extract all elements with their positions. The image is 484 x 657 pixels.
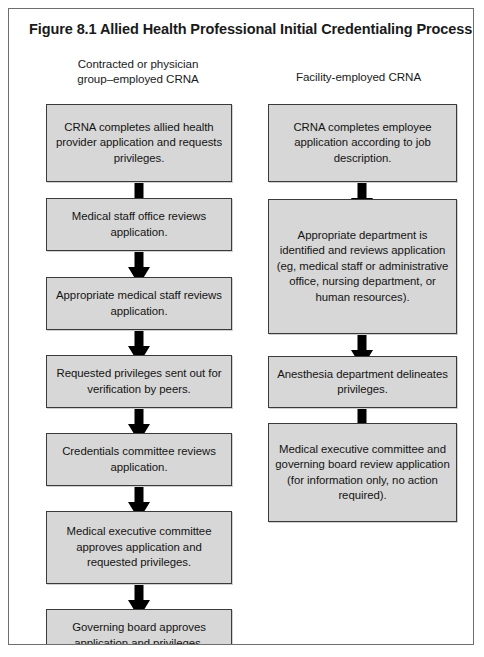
flow-step-governing-board-approves: Governing board approves application and… (46, 609, 232, 645)
flow-step-crna-completes-employee-application: CRNA completes employee application acco… (268, 104, 457, 182)
flow-step-crna-completes-allied-health-application: CRNA completes allied health provider ap… (46, 104, 232, 182)
flow-step-credentials-committee-reviews: Credentials committee reviews applicatio… (46, 433, 232, 486)
flow-step-anesthesia-department-delineates: Anesthesia department delineates privile… (268, 356, 457, 408)
column-header-contracted: Contracted or physician group–employed C… (38, 56, 238, 87)
flow-step-mec-governing-board-review: Medical executive committee and governin… (268, 423, 457, 522)
flow-step-appropriate-medical-staff-reviews: Appropriate medical staff reviews applic… (46, 277, 232, 330)
column-header-contracted-line2: group–employed CRNA (38, 71, 238, 86)
flow-step-medical-staff-office-reviews: Medical staff office reviews application… (46, 198, 232, 251)
flow-step-requested-privileges-verification: Requested privileges sent out for verifi… (46, 355, 232, 408)
column-header-facility: Facility-employed CRNA (260, 69, 457, 84)
flow-step-appropriate-department-identified: Appropriate department is identified and… (268, 199, 457, 334)
figure-frame: Figure 8.1 Allied Health Professional In… (8, 8, 474, 645)
flow-step-medical-executive-committee-approves: Medical executive committee approves app… (46, 511, 232, 584)
figure-title: Figure 8.1 Allied Health Professional In… (29, 21, 469, 38)
column-header-contracted-line1: Contracted or physician (38, 56, 238, 71)
column-header-facility-line1: Facility-employed CRNA (260, 69, 457, 84)
